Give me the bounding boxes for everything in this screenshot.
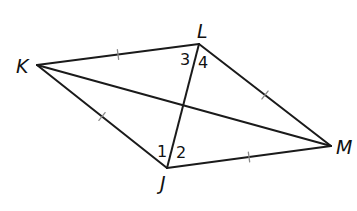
angle-label-2: 2 <box>176 143 186 162</box>
angle-label-3: 3 <box>180 50 190 69</box>
tick-mark-icon <box>248 152 249 162</box>
vertex-label-m: M <box>336 136 352 158</box>
vertex-label-l: L <box>197 20 208 42</box>
angle-label-1: 1 <box>157 142 167 161</box>
vertex-label-j: J <box>156 172 166 194</box>
vertex-label-k: K <box>16 55 30 77</box>
tick-mark-icon <box>117 50 118 60</box>
angle-label-4: 4 <box>198 53 208 72</box>
rhombus-diagram: K L M J 3 4 1 2 <box>0 0 357 211</box>
